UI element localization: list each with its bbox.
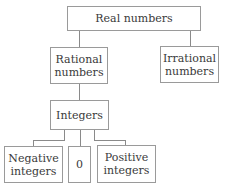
connector-rational-integers xyxy=(79,84,80,100)
connector-integers-zero xyxy=(80,130,81,146)
connector-real-rational xyxy=(79,31,80,47)
node-label-line2: numbers xyxy=(165,65,214,78)
node-label-line1: Positive xyxy=(105,151,148,164)
node-label-line2: integers xyxy=(104,164,150,177)
node-rational-numbers: Rational numbers xyxy=(50,47,108,84)
node-label: Integers xyxy=(56,109,103,122)
node-label-line1: Rational xyxy=(56,53,103,66)
node-label-line2: numbers xyxy=(54,66,103,79)
connector-real-irrational xyxy=(190,31,191,46)
node-negative-integers: Negative integers xyxy=(4,146,63,183)
node-label: Real numbers xyxy=(95,12,172,25)
node-real-numbers: Real numbers xyxy=(67,6,201,31)
node-irrational-numbers: Irrational numbers xyxy=(160,46,219,83)
node-positive-integers: Positive integers xyxy=(97,145,156,183)
node-label-line2: integers xyxy=(11,165,57,178)
connector-integers-positive-a xyxy=(94,130,95,140)
node-label-line1: Irrational xyxy=(163,52,216,65)
node-integers: Integers xyxy=(50,100,109,130)
connector-integers-negative-a xyxy=(64,130,65,140)
node-zero: 0 xyxy=(68,146,91,183)
node-label-line1: Negative xyxy=(8,152,58,165)
node-label: 0 xyxy=(76,158,83,171)
connector-integers-negative-b xyxy=(33,140,65,141)
connector-integers-positive-b xyxy=(94,140,126,141)
